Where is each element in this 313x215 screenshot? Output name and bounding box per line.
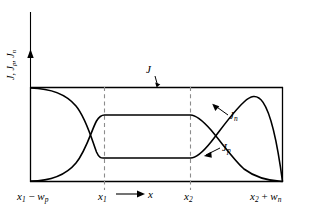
x-axis-direction-label: x — [148, 189, 153, 200]
x-tick-right-second-sub: n — [278, 195, 282, 204]
x-axis-direction-text: x — [148, 188, 153, 200]
x-tick-left-second-sub: p — [45, 195, 49, 204]
y-axis-label-jn: Jn — [5, 50, 16, 58]
x-tick-label-right: x2 + wn — [250, 191, 281, 202]
x-axis-arrow — [116, 191, 145, 198]
x-tick-right-sub: 2 — [255, 195, 259, 204]
y-axis-label-sep2: , — [5, 58, 16, 63]
curve-jp — [31, 88, 283, 182]
x-tick-x2-sub: 2 — [189, 195, 193, 204]
y-axis-label: J, Jp, Jn — [6, 50, 16, 80]
y-axis-label-j: J — [5, 76, 16, 80]
y-axis-arrowhead — [27, 49, 33, 58]
x-tick-x1-sub: 1 — [103, 195, 107, 204]
x-tick-label-left: x1 − wp — [17, 191, 48, 202]
x-tick-right-second-main: w — [270, 190, 277, 202]
annotation-arrow-jp — [204, 148, 220, 158]
curve-label-total: J — [146, 64, 151, 75]
x-tick-left-sub: 1 — [22, 195, 26, 204]
x-tick-right-op: + — [259, 190, 271, 202]
x-tick-left-second-main: w — [37, 190, 44, 202]
y-axis-label-jp: Jp — [5, 63, 16, 71]
curve-label-total-text: J — [146, 63, 151, 75]
x-tick-left-op: − — [26, 190, 38, 202]
x-tick-label-x1: x1 — [98, 191, 107, 202]
plot-canvas — [0, 0, 313, 215]
curve-label-hole: Jp — [222, 142, 231, 153]
annotation-arrow-jn — [212, 104, 228, 115]
curve-jn — [31, 115, 283, 182]
curve-label-electron: Jn — [229, 110, 238, 121]
x-tick-label-x2: x2 — [184, 191, 193, 202]
curve-label-electron-sub: n — [234, 114, 238, 123]
curve-label-hole-sub: p — [227, 146, 231, 155]
y-axis-label-sep1: , — [5, 71, 16, 76]
annotation-arrow-j — [155, 76, 160, 88]
current-density-figure: J, Jp, Jn J Jn Jp x1 − wp x1 x x2 x2 + w… — [0, 0, 313, 215]
